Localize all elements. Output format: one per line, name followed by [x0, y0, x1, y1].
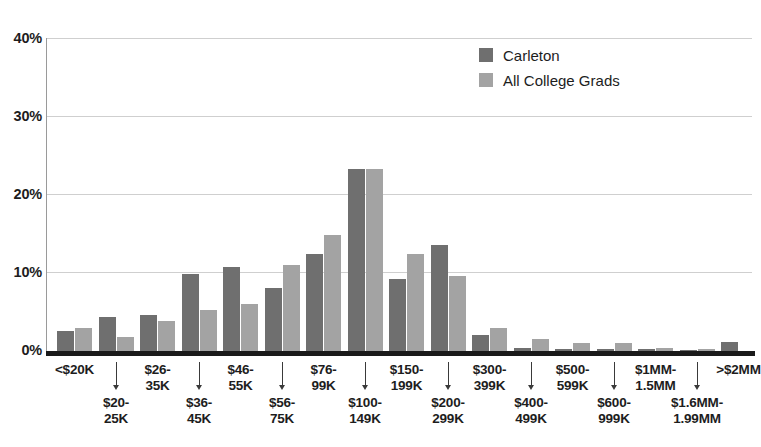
bar-carleton	[57, 331, 74, 351]
x-axis-label: $100- 149K	[328, 395, 402, 426]
bar-all-college-grads	[449, 276, 466, 351]
x-axis-label: $600- 999K	[577, 395, 651, 426]
x-axis-label: $200- 299K	[411, 395, 485, 426]
legend-label-carleton: Carleton	[503, 47, 560, 64]
bar-all-college-grads	[241, 304, 258, 351]
bar-all-college-grads	[615, 343, 632, 351]
bar-carleton	[348, 169, 365, 351]
bar-carleton	[306, 254, 323, 351]
x-axis-label: $26- 35K	[121, 362, 195, 393]
chart-legend: Carleton All College Grads	[479, 44, 620, 94]
bar-carleton	[431, 245, 448, 351]
x-axis-label: $76- 99K	[287, 362, 361, 393]
bar-carleton	[223, 267, 240, 352]
bar-carleton	[265, 288, 282, 351]
bar-all-college-grads	[573, 343, 590, 351]
x-axis-labels: <$20K$20- 25K$26- 35K$36- 45K$46- 55K$56…	[0, 356, 761, 447]
x-axis-label: $400- 499K	[494, 395, 568, 426]
bar-all-college-grads	[158, 321, 175, 351]
bar-all-college-grads	[200, 310, 217, 351]
x-axis-label: $300- 399K	[453, 362, 527, 393]
y-tick-10: 10%	[2, 264, 42, 280]
bar-carleton	[182, 274, 199, 351]
legend-item-all-college-grads: All College Grads	[479, 69, 620, 91]
y-tick-20: 20%	[2, 186, 42, 202]
x-axis-label: $20- 25K	[79, 395, 153, 426]
legend-swatch-all-college-grads	[479, 73, 493, 87]
chart-root: 40% 30% 20% 10% 0% Carleton All College …	[0, 0, 761, 447]
bar-carleton	[721, 342, 738, 351]
bar-carleton	[472, 335, 489, 351]
x-axis-label: <$20K	[38, 362, 112, 378]
y-tick-30: 30%	[2, 108, 42, 124]
bar-all-college-grads	[283, 265, 300, 351]
x-axis-label: $500- 599K	[536, 362, 610, 393]
x-axis-label: $1.6MM- 1.99MM	[660, 395, 734, 426]
bar-all-college-grads	[117, 337, 134, 351]
x-axis-label: $1MM- 1.5MM	[619, 362, 693, 393]
bar-carleton	[99, 317, 116, 351]
legend-swatch-carleton	[479, 48, 493, 62]
bar-all-college-grads	[366, 169, 383, 351]
bar-series-container	[46, 38, 755, 351]
x-axis-label: $56- 75K	[245, 395, 319, 426]
bar-all-college-grads	[490, 328, 507, 351]
bar-all-college-grads	[75, 328, 92, 351]
x-axis-label: $150- 199K	[370, 362, 444, 393]
bar-carleton	[140, 315, 157, 351]
y-tick-40: 40%	[2, 30, 42, 46]
x-axis-label: >$2MM	[702, 362, 761, 378]
legend-label-all-college-grads: All College Grads	[503, 72, 620, 89]
legend-item-carleton: Carleton	[479, 44, 620, 66]
bar-carleton	[389, 279, 406, 351]
x-axis-label: $36- 45K	[162, 395, 236, 426]
bar-all-college-grads	[532, 339, 549, 351]
x-axis-label: $46- 55K	[204, 362, 278, 393]
bar-all-college-grads	[407, 254, 424, 351]
bar-all-college-grads	[324, 235, 341, 351]
